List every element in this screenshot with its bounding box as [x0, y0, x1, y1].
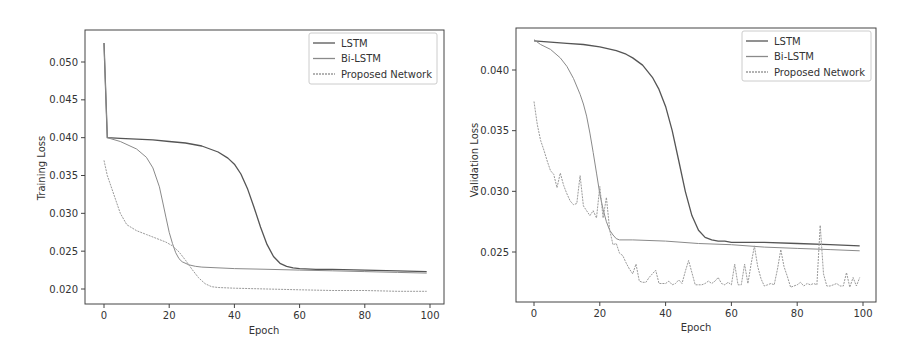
- training-loss-chart: 0.0200.0250.0300.0350.0400.0450.050 0204…: [36, 30, 444, 336]
- y-tick-label: 0.030: [480, 186, 509, 197]
- legend: LSTMBi-LSTMProposed Network: [309, 33, 437, 84]
- x-tick-label: 0: [531, 308, 537, 319]
- legend-label: Bi-LSTM: [774, 51, 814, 62]
- y-tick-label: 0.030: [49, 208, 78, 219]
- validation-loss-chart: 0.0250.0300.0350.040 020406080100 Epoch …: [469, 28, 876, 333]
- y-tick-label: 0.020: [49, 284, 78, 295]
- x-axis-label: Epoch: [681, 322, 712, 333]
- x-tick-label: 100: [420, 310, 439, 321]
- x-tick-label: 0: [101, 310, 107, 321]
- y-axis-ticks: 0.0250.0300.0350.040: [480, 65, 516, 258]
- y-axis-ticks: 0.0200.0250.0300.0350.0400.0450.050: [49, 57, 85, 295]
- y-tick-label: 0.025: [480, 247, 509, 258]
- x-tick-label: 60: [725, 308, 738, 319]
- legend: LSTMBi-LSTMProposed Network: [742, 31, 871, 81]
- legend-label: Proposed Network: [341, 69, 432, 80]
- legend-label: LSTM: [341, 38, 368, 49]
- x-axis-ticks: 020406080100: [101, 304, 440, 321]
- y-tick-label: 0.035: [49, 170, 78, 181]
- y-axis-label: Training Loss: [36, 136, 47, 202]
- y-tick-label: 0.035: [480, 125, 509, 136]
- x-tick-label: 60: [293, 310, 306, 321]
- x-axis-ticks: 020406080100: [531, 302, 873, 319]
- legend-label: LSTM: [774, 36, 801, 47]
- x-tick-label: 40: [228, 310, 241, 321]
- legend-label: Bi-LSTM: [341, 53, 381, 64]
- x-axis-label: Epoch: [249, 325, 280, 336]
- y-axis-label: Validation Loss: [469, 123, 480, 198]
- y-tick-label: 0.050: [49, 57, 78, 68]
- x-tick-label: 100: [853, 308, 872, 319]
- x-tick-label: 80: [358, 310, 371, 321]
- x-tick-label: 20: [163, 310, 176, 321]
- x-tick-label: 20: [593, 308, 606, 319]
- legend-label: Proposed Network: [774, 67, 865, 78]
- y-tick-label: 0.040: [49, 132, 78, 143]
- y-tick-label: 0.025: [49, 246, 78, 257]
- figure-canvas: 0.0200.0250.0300.0350.0400.0450.050 0204…: [0, 0, 919, 348]
- x-tick-label: 40: [659, 308, 672, 319]
- line-proposed-network: [534, 102, 860, 288]
- x-tick-label: 80: [791, 308, 804, 319]
- y-tick-label: 0.040: [480, 65, 509, 76]
- y-tick-label: 0.045: [49, 94, 78, 105]
